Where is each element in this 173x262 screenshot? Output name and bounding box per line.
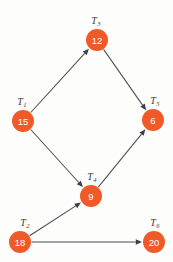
graph-node-t4[interactable]: 9T4 — [80, 171, 102, 208]
node-label-t4: T4 — [87, 171, 97, 183]
arrowhead-t2-to-t4 — [74, 203, 81, 209]
task-graph: 15T118T212T39T46T520T6 — [0, 0, 173, 262]
graph-node-t1[interactable]: 15T1 — [12, 96, 34, 133]
edge-t1-to-t4 — [31, 130, 79, 183]
graph-node-t3[interactable]: 12T3 — [86, 15, 108, 52]
edge-t1-to-t3 — [31, 53, 85, 112]
node-label-subscript: 1 — [23, 100, 26, 107]
edge-t3-to-t5 — [104, 49, 143, 105]
node-value-t1: 15 — [18, 116, 29, 127]
graph-node-t6[interactable]: 20T6 — [143, 217, 165, 254]
graph-node-t2[interactable]: 18T2 — [9, 217, 31, 254]
node-label-t5: T5 — [150, 95, 160, 107]
node-label-subscript: 4 — [93, 175, 97, 182]
node-value-t4: 9 — [88, 191, 93, 202]
node-label-t3: T3 — [91, 15, 101, 27]
edge-t4-to-t5 — [98, 134, 141, 187]
graph-node-t5[interactable]: 6T5 — [142, 95, 164, 132]
node-label-subscript: 2 — [26, 221, 30, 228]
node-label-t1: T1 — [17, 96, 26, 108]
arrowhead-t3-to-t5 — [140, 104, 146, 111]
node-label-t2: T2 — [20, 217, 30, 229]
edge-layer — [30, 49, 146, 245]
node-value-t5: 6 — [150, 115, 155, 126]
node-value-t3: 12 — [92, 35, 103, 46]
edge-t2-to-t4 — [30, 206, 76, 236]
arrowhead-t2-to-t6 — [136, 239, 142, 244]
node-value-t6: 20 — [149, 237, 160, 248]
node-value-t2: 18 — [15, 237, 26, 248]
diagram-canvas: 15T118T212T39T46T520T6 — [0, 0, 173, 262]
node-label-subscript: 3 — [96, 19, 101, 26]
node-label-subscript: 5 — [156, 99, 160, 106]
node-label-subscript: 6 — [156, 221, 160, 228]
node-label-t6: T6 — [150, 217, 160, 229]
